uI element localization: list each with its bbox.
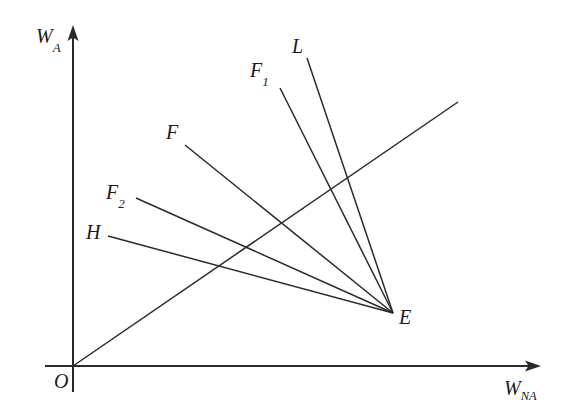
ray-label-F: F [166,122,178,146]
origin-label: O [54,371,68,391]
ray-label-H: H [86,222,100,246]
ray-label-F1: F1 [250,60,269,84]
horizontal-axis-label-base: W [504,377,521,399]
ray-L [307,58,393,313]
horizontal-axis-label-subscript: NA [521,389,537,403]
ray-H [108,236,393,313]
ray-label-L-base: L [292,35,303,57]
vertical-axis [68,25,79,392]
vertical-axis-label-base: W [36,25,53,47]
ray-label-F1-base: F [250,59,262,81]
ray-F [185,145,393,313]
ray-label-L: L [292,36,303,60]
point-E-label: E [399,307,411,327]
ray-label-F2-subscript: 2 [118,196,125,211]
ray-label-F2-base: F [106,181,118,203]
vertical-axis-label: WA [36,26,61,50]
ray-F1 [280,88,393,313]
ray-label-H-base: H [86,221,100,243]
ray-label-F2: F2 [106,182,125,206]
diagram-svg [0,0,572,420]
ray-label-F1-subscript: 1 [262,74,269,89]
horizontal-axis-label: WNA [504,378,537,398]
vertical-axis-label-subscript: A [53,40,61,55]
ray-label-F-base: F [166,121,178,143]
diagram-canvas: WA WNA O E L F1 F F2 H [0,0,572,420]
horizontal-axis [45,361,541,372]
